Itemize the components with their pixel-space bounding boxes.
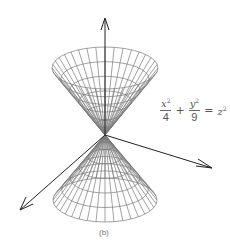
y-exponent: 2	[195, 97, 199, 104]
lower-nappe	[53, 135, 157, 222]
fraction-x: x2 4	[160, 98, 171, 123]
double-cone-figure	[0, 0, 230, 252]
x-axis	[20, 135, 105, 210]
x-denominator: 4	[163, 111, 169, 123]
plus-sign: +	[175, 104, 184, 117]
fraction-y: y2 9	[189, 98, 200, 123]
figure-caption: (b)	[99, 228, 109, 237]
rhs-term: z2	[217, 105, 226, 117]
x-exponent: 2	[167, 97, 171, 104]
equals-sign: =	[204, 104, 213, 117]
y-denominator: 9	[191, 111, 197, 123]
cone-equation: x2 4 + y2 9 = z2	[160, 98, 227, 123]
z-exponent: 2	[223, 105, 227, 112]
